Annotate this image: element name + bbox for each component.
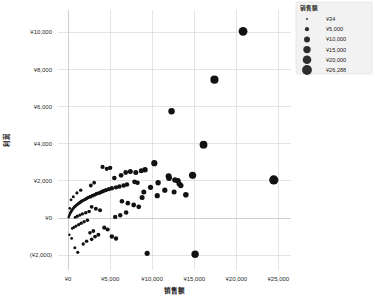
x-axis-title: 销售额 — [164, 286, 185, 295]
data-point[interactable] — [68, 216, 70, 218]
legend-marker — [305, 27, 309, 31]
data-point[interactable] — [148, 185, 153, 190]
data-point[interactable] — [110, 234, 114, 238]
data-point[interactable] — [71, 227, 74, 230]
data-point[interactable] — [126, 201, 131, 206]
data-point[interactable] — [84, 211, 88, 215]
data-point[interactable] — [73, 246, 76, 249]
data-point[interactable] — [140, 195, 145, 200]
data-point[interactable] — [82, 220, 85, 223]
legend-marker — [303, 46, 310, 53]
x-tick-label: ¥5,000 — [101, 276, 120, 282]
data-point[interactable] — [76, 251, 79, 254]
y-tick-label: (¥2,000) — [30, 252, 52, 258]
x-tick-label: ¥25,000 — [268, 276, 290, 282]
data-point[interactable] — [98, 208, 102, 212]
legend-entry-label: ¥10,000 — [326, 36, 346, 42]
y-tick-label: ¥8,000 — [34, 67, 53, 73]
data-point[interactable] — [86, 218, 90, 222]
data-point[interactable] — [89, 184, 93, 188]
x-tick-label: ¥20,000 — [225, 276, 247, 282]
data-point[interactable] — [72, 195, 75, 198]
data-point[interactable] — [155, 193, 160, 198]
data-point[interactable] — [123, 170, 128, 175]
y-tick-label: ¥0 — [45, 215, 52, 221]
data-point[interactable] — [85, 239, 89, 243]
data-point[interactable] — [119, 173, 124, 178]
data-point[interactable] — [106, 227, 110, 231]
data-point[interactable] — [114, 185, 118, 189]
data-point[interactable] — [136, 204, 141, 209]
legend-marker — [302, 65, 312, 75]
data-point[interactable] — [168, 108, 174, 114]
data-point[interactable] — [200, 141, 208, 149]
data-point[interactable] — [90, 238, 94, 242]
legend-entry-label: ¥5,000 — [326, 26, 343, 32]
data-point[interactable] — [68, 234, 70, 236]
data-point[interactable] — [128, 169, 133, 174]
data-point[interactable] — [114, 236, 118, 240]
legend-entry-label: ¥20,000 — [326, 57, 346, 63]
data-point[interactable] — [145, 251, 150, 256]
data-point[interactable] — [139, 168, 144, 173]
legend-title: 销售额 — [300, 4, 318, 12]
data-point[interactable] — [70, 237, 73, 240]
legend-entry-label: ¥26,288 — [326, 67, 346, 73]
y-tick-label: ¥4,000 — [34, 141, 53, 147]
data-point[interactable] — [93, 235, 97, 239]
data-point[interactable] — [87, 210, 91, 214]
x-tick-label: ¥15,000 — [183, 276, 205, 282]
y-tick-label: ¥10,000 — [30, 29, 52, 35]
data-point[interactable] — [90, 205, 94, 209]
data-point[interactable] — [100, 165, 104, 169]
data-point-group — [68, 27, 279, 258]
data-point[interactable] — [68, 207, 71, 210]
data-point[interactable] — [74, 216, 77, 219]
data-point[interactable] — [70, 198, 73, 201]
data-point[interactable] — [133, 170, 138, 175]
data-point[interactable] — [166, 175, 172, 181]
data-point[interactable] — [113, 215, 117, 219]
data-point[interactable] — [191, 251, 198, 258]
data-point[interactable] — [82, 242, 85, 245]
data-point[interactable] — [172, 190, 177, 195]
y-axis-title: 利润 — [2, 133, 11, 147]
x-tick-label: ¥10,000 — [141, 276, 163, 282]
data-point[interactable] — [112, 176, 117, 181]
legend-marker — [303, 56, 312, 65]
legend-marker — [306, 18, 308, 20]
data-point[interactable] — [162, 188, 167, 193]
x-tick-label: ¥0 — [65, 276, 72, 282]
data-point[interactable] — [118, 213, 122, 217]
data-point[interactable] — [121, 183, 126, 188]
data-point[interactable] — [239, 27, 248, 36]
data-point[interactable] — [151, 160, 157, 166]
legend-entry-label: ¥15,000 — [326, 47, 346, 53]
data-point[interactable] — [141, 190, 146, 195]
data-point[interactable] — [183, 192, 189, 198]
data-point[interactable] — [94, 207, 98, 211]
data-point[interactable] — [120, 199, 125, 204]
data-point[interactable] — [96, 233, 100, 237]
data-point[interactable] — [88, 231, 92, 235]
data-point[interactable] — [131, 203, 136, 208]
chart-canvas: (¥2,000)¥0¥2,000¥4,000¥6,000¥8,000¥10,00… — [0, 0, 375, 303]
data-point[interactable] — [124, 210, 129, 215]
legend-entry-label: ¥34 — [326, 16, 335, 22]
data-point[interactable] — [210, 76, 218, 84]
data-point[interactable] — [91, 229, 95, 233]
data-point[interactable] — [189, 172, 196, 179]
data-point[interactable] — [75, 191, 78, 194]
data-point[interactable] — [79, 188, 82, 191]
y-tick-label: ¥2,000 — [34, 178, 53, 184]
legend-marker — [304, 36, 310, 42]
data-point[interactable] — [269, 175, 278, 184]
data-point[interactable] — [92, 181, 96, 185]
data-point[interactable] — [135, 180, 140, 185]
scatter-chart: (¥2,000)¥0¥2,000¥4,000¥6,000¥8,000¥10,00… — [0, 0, 375, 303]
data-point[interactable] — [155, 180, 160, 185]
data-point[interactable] — [178, 183, 183, 188]
y-tick-label: ¥6,000 — [34, 104, 53, 110]
data-point[interactable] — [108, 166, 112, 170]
